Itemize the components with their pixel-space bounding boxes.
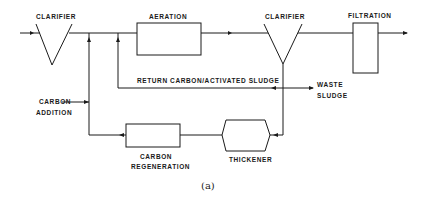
main-flow-line — [20, 31, 408, 35]
arrow-icon — [309, 86, 314, 90]
arrow-icon — [271, 86, 276, 90]
arrow-icon — [116, 37, 120, 42]
clarifier-1: CLARIFIER — [36, 13, 76, 65]
return-sludge-label: RETURN CARBON/ACTIVATED SLUDGE — [137, 77, 279, 84]
aeration-label: AERATION — [149, 13, 187, 20]
arrow-icon — [84, 100, 89, 104]
waste-sludge-label-1: WASTE — [317, 81, 343, 88]
clarifier-2-label: CLARIFIER — [265, 13, 305, 20]
carbon-addition-line: CARBON ADDITION — [36, 33, 91, 135]
figure-caption: (a) — [201, 180, 215, 191]
carbon-regeneration-unit: CARBON REGENERATION — [126, 124, 190, 170]
arrow-icon — [30, 31, 34, 35]
waste-sludge: WASTE SLUDGE — [309, 81, 348, 99]
carbon-addition-label-2: ADDITION — [36, 109, 72, 116]
filtration-unit: FILTRATION — [348, 12, 392, 73]
thickener-unit: THICKENER — [222, 120, 272, 163]
arrow-icon — [119, 133, 124, 137]
clarifier-1-label: CLARIFIER — [36, 13, 76, 20]
arrow-icon — [273, 133, 278, 137]
clarifier-2: CLARIFIER — [264, 13, 305, 64]
process-flow-diagram: CLARIFIER AERATION CLARIFIER FILTRATION … — [0, 0, 426, 206]
carbon-addition-label-1: CARBON — [39, 98, 71, 105]
arrow-icon — [228, 31, 232, 35]
aeration-tank: AERATION — [137, 13, 201, 55]
filtration-label: FILTRATION — [348, 12, 392, 19]
arrow-icon — [87, 37, 91, 42]
carbon-regeneration-label-1: CARBON — [140, 153, 172, 160]
carbon-regeneration-label-2: REGENERATION — [131, 163, 190, 170]
waste-sludge-label-2: SLUDGE — [317, 92, 348, 99]
arrow-icon — [403, 31, 408, 35]
thickener-label: THICKENER — [229, 156, 272, 163]
